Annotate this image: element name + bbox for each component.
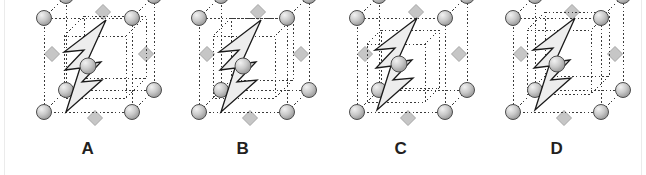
panel-a[interactable]: A xyxy=(8,0,168,175)
panel-c-label: C xyxy=(321,139,481,159)
panel-d-diagram xyxy=(477,0,637,140)
panel-a-label: A xyxy=(8,139,168,159)
right-edge-rule xyxy=(641,0,642,175)
panel-a-diagram xyxy=(8,0,168,140)
panel-c[interactable]: C xyxy=(321,0,481,175)
left-edge-rule xyxy=(4,0,5,175)
panel-d[interactable]: D xyxy=(477,0,637,175)
panel-b-label: B xyxy=(163,139,323,159)
panel-d-label: D xyxy=(477,139,637,159)
panel-b[interactable]: B xyxy=(163,0,323,175)
figure-canvas: A B C D xyxy=(0,0,646,175)
panel-c-diagram xyxy=(321,0,481,140)
panel-b-diagram xyxy=(163,0,323,140)
